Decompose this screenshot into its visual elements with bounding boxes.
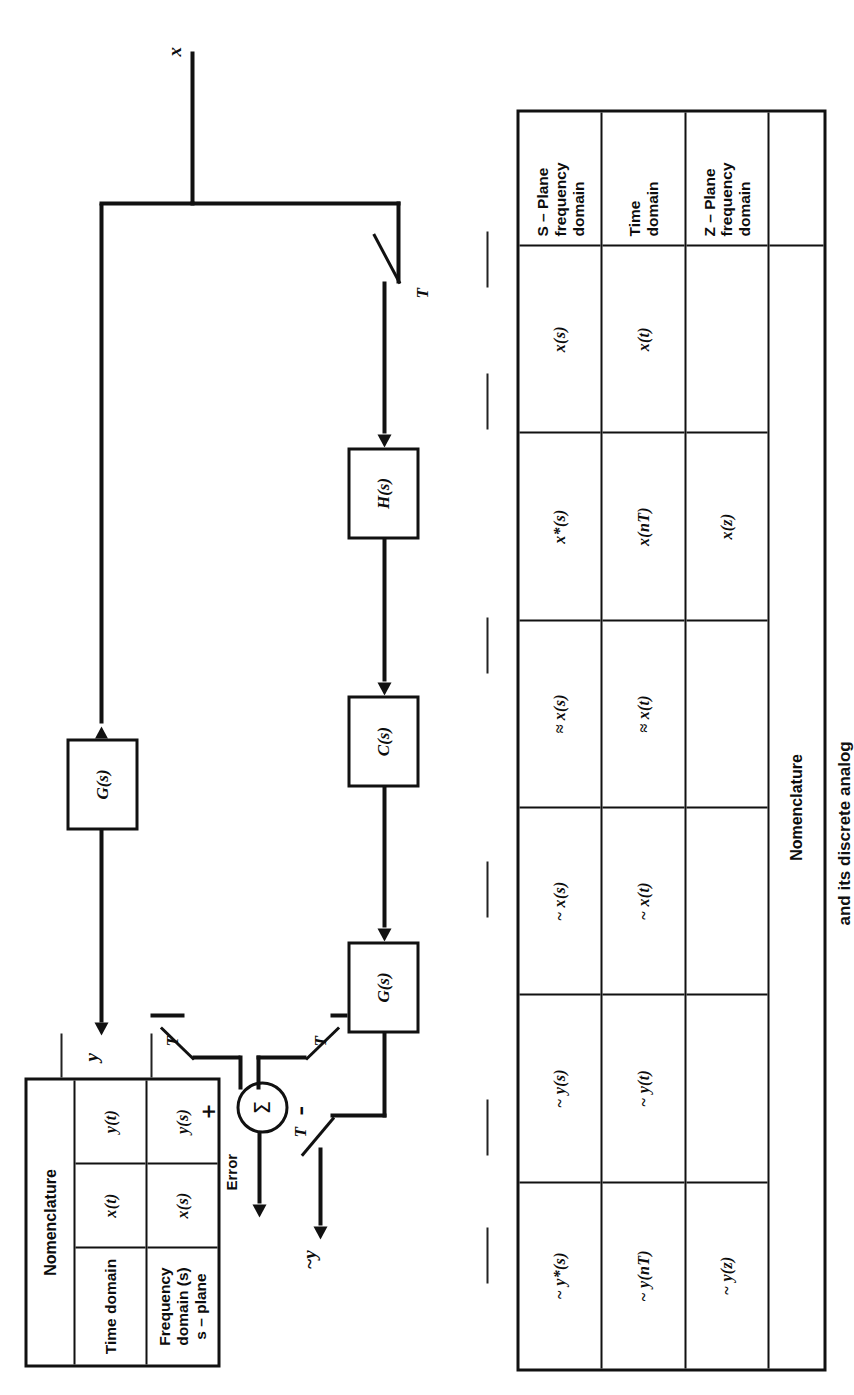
discrete-nomenclature-table: ~ y*(s) ~ y(s) ~ x(s) ≈ x(s) x*(s) x(s) … (516, 109, 826, 1371)
table-row: Time domain x(t) y(t) (75, 1080, 147, 1364)
discrete-cell-c1-r2: x(t) (602, 244, 683, 431)
analog-cell-x-time: x(t) (75, 1162, 145, 1246)
block-analog-plant: G(s) (66, 738, 138, 830)
leader-line-5 (486, 1099, 488, 1155)
analog-output-label: y (80, 1053, 102, 1061)
arrow-icon (94, 1022, 108, 1035)
table-row: Nomenclature (27, 1080, 75, 1364)
error-line (257, 1131, 261, 1203)
table-row: ~ y*(s) ~ y(s) ~ x(s) ≈ x(s) x*(s) x(s) … (519, 112, 602, 1368)
discrete-cell-c5-r3 (686, 993, 767, 1180)
sum-minus-feeder-horizontal (256, 1055, 260, 1089)
input-signal-label: x (163, 47, 185, 57)
figure-caption: and its discrete analog (834, 741, 854, 925)
analog-cell-y-freq: y(s) (147, 1080, 217, 1162)
input-line (190, 51, 194, 203)
discrete-cell-c6-r1: ~ y*(s) (519, 1181, 600, 1368)
discrete-output-label: ~y (298, 1250, 320, 1269)
sampler-label-plus: T (162, 1036, 182, 1046)
discrete-cell-c2-r3: x(z) (686, 431, 767, 618)
error-label: Error (222, 1153, 239, 1190)
arrow-icon (377, 434, 391, 447)
discrete-after-sampler (382, 281, 386, 433)
input-branch-vertical (99, 201, 194, 205)
discrete-branch-vertical (190, 201, 400, 205)
analog-output-line (99, 828, 103, 1022)
sum-minus-feeder-vertical (256, 1055, 306, 1059)
sum-plus-feeder-horizontal (238, 1055, 242, 1089)
analog-forward-line (99, 203, 103, 723)
discrete-row-label-splane: S – Plane frequency domain (519, 112, 600, 244)
arrow-icon (94, 726, 108, 739)
discrete-output-run (382, 1031, 386, 1117)
sampler-label-input: T (412, 288, 432, 298)
sigma-symbol: Σ (250, 1100, 274, 1113)
discrete-cell-c1-r1: x(s) (519, 244, 600, 431)
discrete-cell-c2-r1: x*(s) (519, 431, 600, 618)
leader-line-x-analog (150, 1033, 152, 1077)
discrete-cell-c6-r2: ~ y(nT) (602, 1181, 683, 1368)
line-hold-to-controller (382, 537, 386, 681)
discrete-cell-c3-r2: ≈ x(t) (602, 619, 683, 806)
discrete-cell-c5-r1: ~ y(s) (519, 993, 600, 1180)
block-digital-plant: G(s) (347, 941, 419, 1033)
discrete-row-label-zplane: Z – Plane frequency domain (686, 112, 767, 244)
block-controller: C(s) (347, 695, 419, 787)
sampler-label-output: T (290, 1127, 310, 1137)
sampler-label-minus: T (310, 1036, 330, 1046)
block-hold: H(s) (347, 447, 419, 539)
sum-plus-feeder-vertical (192, 1055, 240, 1059)
leader-line-4 (486, 861, 488, 917)
analog-row-label-freq: Frequency domain (s) s – plane (147, 1246, 217, 1364)
discrete-cell-c1-r3 (686, 244, 767, 431)
table-row: Nomenclature (769, 112, 823, 1368)
discrete-output-tap (330, 1113, 386, 1117)
summing-junction-icon: Σ (236, 1081, 288, 1133)
analog-cell-x-freq: x(s) (147, 1162, 217, 1246)
analog-nomenclature-table: Nomenclature Time domain x(t) y(t) Frequ… (24, 1077, 220, 1367)
discrete-output-line (318, 1147, 322, 1225)
table-row: ~ y(z) x(z) Z – Plane frequency domain (686, 112, 769, 1368)
leader-line-2 (486, 373, 488, 429)
discrete-row-label-blank (769, 112, 823, 244)
discrete-row-label-time: Time domain (602, 112, 683, 244)
discrete-input-run (396, 201, 400, 283)
discrete-cell-c4-r2: ~ x(t) (602, 806, 683, 993)
table-row: ~ y(nT) ~ y(t) ~ x(t) ≈ x(t) x(nT) x(t) … (602, 112, 685, 1368)
analog-row-label-time: Time domain (75, 1246, 145, 1364)
discrete-cell-c4-r3 (686, 806, 767, 993)
arrow-icon (313, 1226, 327, 1239)
discrete-cell-c2-r2: x(nT) (602, 431, 683, 618)
leader-line-1 (486, 231, 488, 287)
discrete-cell-c4-r1: ~ x(s) (519, 806, 600, 993)
leader-line-y-analog (60, 1033, 62, 1077)
arrow-icon (377, 682, 391, 695)
analog-cell-y-time: y(t) (75, 1080, 145, 1162)
line-controller-to-plant (382, 785, 386, 927)
discrete-cell-c5-r2: ~ y(t) (602, 993, 683, 1180)
discrete-cell-c3-r1: ≈ x(s) (519, 619, 600, 806)
arrow-icon (377, 928, 391, 941)
analog-nomenclature-title: Nomenclature (27, 1080, 73, 1364)
sum-plus-source-stub (150, 1013, 184, 1017)
plus-sign-label: + (196, 1103, 218, 1119)
discrete-nomenclature-title: Nomenclature (769, 244, 823, 1368)
arrow-icon (252, 1204, 266, 1217)
discrete-cell-c6-r3: ~ y(z) (686, 1181, 767, 1368)
minus-sign-label: – (288, 1106, 310, 1116)
leader-line-6 (486, 1227, 488, 1283)
discrete-cell-c3-r3 (686, 619, 767, 806)
leader-line-3 (486, 617, 488, 673)
table-row: Frequency domain (s) s – plane x(s) y(s) (147, 1080, 217, 1364)
